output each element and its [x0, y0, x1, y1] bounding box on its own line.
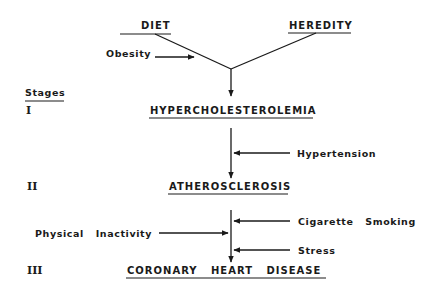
stage-1-numeral: I: [26, 104, 31, 117]
hypertension-label: Hypertension: [297, 148, 376, 159]
heredity-label: HEREDITY: [289, 20, 353, 31]
physical-inactivity-label: Physical Inactivity: [35, 228, 152, 239]
stress-label: Stress: [298, 245, 335, 256]
risk-factor-flow-diagram: DIET HEREDITY Obesity Stages I HYPERCHOL…: [0, 0, 439, 300]
stages-heading: Stages: [25, 87, 65, 98]
stage-3-label: CORONARY HEART DISEASE: [127, 265, 321, 276]
obesity-label: Obesity: [106, 48, 151, 59]
heredity-connector-line: [231, 33, 316, 69]
stage-3-numeral: III: [27, 264, 42, 277]
stage-2-label: ATHEROSCLEROSIS: [169, 181, 291, 192]
stage-1-label: HYPERCHOLESTEROLEMIA: [150, 105, 317, 116]
cigarette-smoking-label: Cigarette Smoking: [298, 216, 416, 227]
diet-connector-line: [155, 34, 231, 69]
stage-2-numeral: II: [27, 180, 37, 193]
diet-label: DIET: [141, 20, 171, 31]
